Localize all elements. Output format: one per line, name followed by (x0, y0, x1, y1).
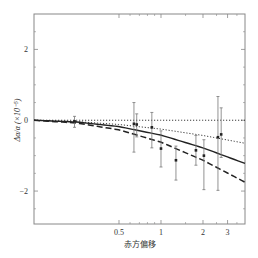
point-marker (217, 136, 220, 139)
x-tick-label: 1 (159, 228, 163, 237)
plot-frame (34, 14, 245, 224)
point-marker (135, 123, 138, 126)
x-tick-label: 2 (201, 228, 205, 237)
curve-model-dotted (34, 120, 245, 143)
data-point (150, 112, 153, 147)
plot-border (34, 14, 245, 224)
data-point (132, 103, 135, 153)
data-point (216, 97, 219, 191)
x-tick-label: 0.5 (114, 228, 124, 237)
y-tick-label: 2 (24, 45, 28, 54)
x-tick-label: 3 (226, 228, 230, 237)
point-marker (220, 133, 223, 136)
data-point (220, 108, 223, 158)
y-tick-label: 0 (24, 116, 28, 125)
data-point (194, 135, 197, 165)
point-marker (195, 149, 198, 152)
point-marker (175, 159, 178, 162)
data-point (174, 146, 177, 180)
data-point (135, 114, 138, 137)
y-tick-label: −2 (19, 187, 28, 196)
y-axis-label: Δα/α (×10⁻⁵) (13, 98, 22, 142)
point-marker (151, 126, 154, 129)
point-marker (203, 154, 206, 157)
model-curves (34, 120, 245, 182)
point-marker (160, 147, 163, 150)
x-axis-label: 赤方偏移 (124, 239, 156, 249)
data-point (73, 116, 76, 127)
point-marker (73, 120, 76, 123)
data-points (73, 97, 223, 191)
data-point (159, 131, 162, 167)
point-marker (133, 122, 136, 125)
x-axis-ticks: 0.5123 (114, 14, 237, 237)
chart: 0.5123 20−2 赤方偏移 Δα/α (×10⁻⁵) (0, 0, 258, 258)
